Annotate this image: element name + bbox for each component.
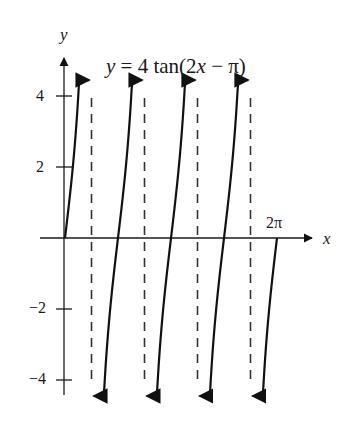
curve-branch-1	[65, 80, 89, 238]
equation-title: y = 4 tan(2x − π)	[104, 54, 246, 78]
equation-lhs: y	[104, 54, 116, 78]
curve-branch-5	[253, 238, 277, 396]
equation-tail: − π)	[206, 54, 246, 78]
tangent-graph: y x 2π 4 2 −2 −4 y = 4 tan(2x − π)	[0, 0, 352, 421]
equation-rest: = 4 tan(2	[115, 54, 196, 78]
y-tick-label-4: 4	[36, 87, 44, 104]
two-pi-label: 2π	[266, 214, 282, 231]
y-axis-label: y	[58, 25, 68, 44]
y-tick-label-neg4: −4	[29, 370, 46, 387]
y-tick-label-neg2: −2	[29, 299, 46, 316]
x-axis-label: x	[322, 229, 331, 248]
y-tick-label-2: 2	[36, 158, 44, 175]
